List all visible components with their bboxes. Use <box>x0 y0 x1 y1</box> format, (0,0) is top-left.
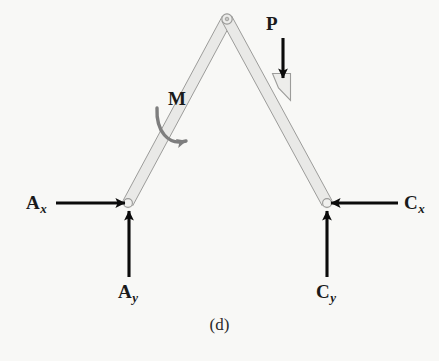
force-label-cx-sub: x <box>418 201 425 216</box>
moment-label-m-main: M <box>168 88 186 109</box>
figure-caption: (d) <box>0 315 439 335</box>
pin-joint-apex-icon <box>222 14 232 24</box>
member-right-BC <box>222 16 332 205</box>
fbd-canvas <box>0 0 439 361</box>
force-label-ax-main: A <box>26 192 40 213</box>
force-label-ay: Ay <box>118 282 138 304</box>
force-label-ax: Ax <box>26 193 47 215</box>
free-body-diagram-figure: Ax Cx Ay Cy P M (d) <box>0 0 439 361</box>
force-label-p-main: P <box>266 13 278 34</box>
force-label-p: P <box>266 14 278 33</box>
force-label-ay-main: A <box>118 281 132 302</box>
force-label-cy-main: C <box>316 281 330 302</box>
force-label-cx: Cx <box>404 193 425 215</box>
force-label-cy-sub: y <box>330 290 336 305</box>
force-label-ax-sub: x <box>40 201 47 216</box>
force-label-ay-sub: y <box>132 290 138 305</box>
force-label-cx-main: C <box>404 192 418 213</box>
pin-joint-C-icon <box>323 199 332 208</box>
force-label-cy: Cy <box>316 282 336 304</box>
moment-label-m: M <box>168 89 186 108</box>
member-left-AB <box>123 16 232 205</box>
